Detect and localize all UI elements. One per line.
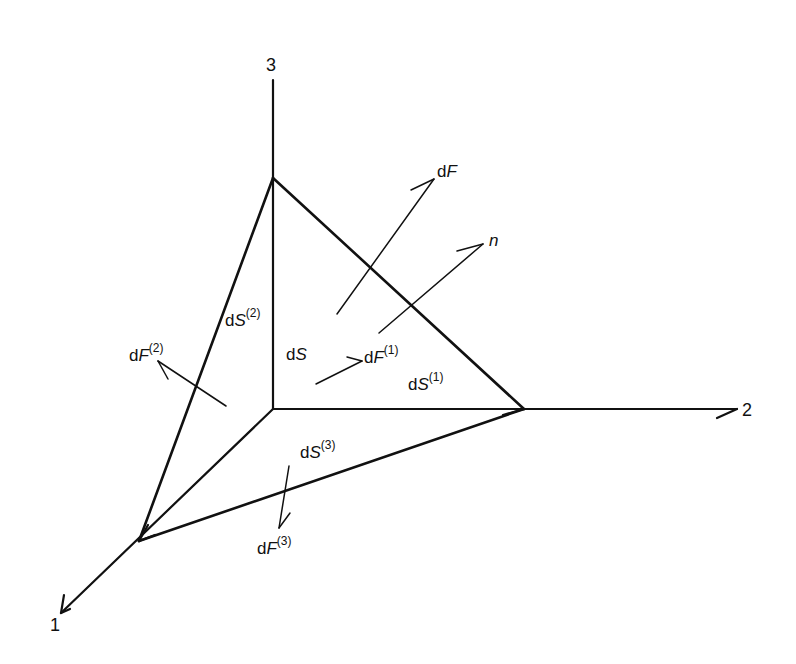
label-dS2: dS(2) (225, 309, 260, 329)
edge-3-2 (273, 178, 524, 409)
label-dF: dF (437, 163, 457, 180)
label-dF2: dF(2) (129, 344, 164, 364)
dF3-arrow (279, 466, 289, 528)
axis-2-arrowhead (717, 409, 737, 418)
axis-1-line (61, 409, 273, 613)
label-dS1: dS(1) (408, 373, 443, 393)
tetrahedron-diagram (0, 0, 796, 664)
label-dS: dS (286, 346, 307, 363)
axis-label-1: 1 (50, 616, 60, 634)
dF1-arrowhead (347, 357, 362, 361)
axis-1-arrowhead (61, 595, 70, 613)
dF1-arrow (316, 361, 362, 384)
label-n: n (489, 232, 498, 249)
axis-label-3: 3 (266, 56, 276, 74)
label-dF3: dF(3) (257, 537, 292, 557)
dF-arrow (337, 179, 434, 314)
label-dF1: dF(1) (364, 346, 399, 366)
edge-1-2 (139, 409, 524, 541)
label-dS3: dS(3) (300, 441, 335, 461)
axis-label-2: 2 (742, 401, 752, 419)
